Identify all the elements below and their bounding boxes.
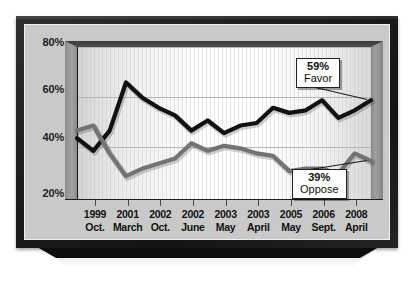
y-tick-label-80: 80% — [43, 36, 64, 48]
y-axis: 80% 60% 40% 20% — [25, 25, 67, 239]
oppose-callout: 39% Oppose — [292, 169, 347, 199]
oppose-callout-value: 39% — [300, 172, 339, 184]
x-axis-label-8: 2008April — [333, 208, 379, 234]
x-tick-8 — [356, 200, 357, 206]
x-axis-labels: 1999Oct.2001March2002Oct.2002June2003May… — [65, 208, 383, 248]
x-tick-5 — [258, 200, 259, 206]
favor-callout-value: 59% — [304, 61, 332, 73]
chart-graphic: 80% 60% 40% 20% — [0, 0, 415, 285]
y-tick-label-20: 20% — [43, 187, 64, 199]
x-tick-4 — [226, 200, 227, 206]
favor-callout: 59% Favor — [296, 58, 340, 88]
x-tick-3 — [193, 200, 194, 206]
frame-highlight — [16, 16, 398, 19]
favor-callout-label: Favor — [304, 73, 332, 85]
x-label-month: April — [333, 221, 379, 234]
x-tick-7 — [324, 200, 325, 206]
x-tick-2 — [160, 200, 161, 206]
oppose-callout-label: Oppose — [300, 184, 339, 196]
x-tick-6 — [291, 200, 292, 206]
x-tick-1 — [128, 200, 129, 206]
y-tick-label-40: 40% — [43, 131, 64, 143]
x-tick-0 — [95, 200, 96, 206]
y-tick-label-60: 60% — [43, 83, 64, 95]
series-line-favor — [77, 82, 371, 150]
x-label-year: 2008 — [333, 208, 379, 221]
x-axis-line — [65, 199, 383, 200]
chart-frame: 80% 60% 40% 20% — [16, 16, 398, 248]
chart-panel: 80% 60% 40% 20% — [24, 24, 390, 240]
